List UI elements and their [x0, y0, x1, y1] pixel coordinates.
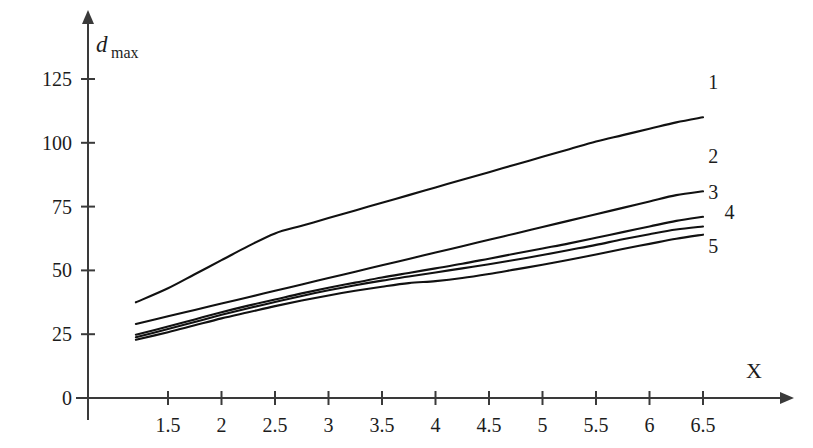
- chart-canvas: 0255075100125 1.522.533.544.555.566.5 12…: [0, 0, 813, 448]
- curve-label-5: 5: [708, 235, 718, 257]
- x-tick-label: 1.5: [156, 414, 181, 436]
- x-tick-label: 4: [431, 414, 441, 436]
- y-tick-label: 75: [52, 196, 72, 218]
- x-tick-label: 6: [645, 414, 655, 436]
- x-tick-label: 5: [538, 414, 548, 436]
- curve-label-3: 3: [708, 181, 718, 203]
- y-tick-label: 25: [52, 323, 72, 345]
- curve-label-4: 4: [724, 201, 734, 223]
- y-axis-title: d max: [96, 32, 139, 61]
- y-tick-label: 50: [52, 259, 72, 281]
- chart-figure: 0255075100125 1.522.533.544.555.566.5 12…: [0, 0, 813, 448]
- data-curves: [136, 117, 703, 340]
- curve-label-1: 1: [708, 71, 718, 93]
- x-axis-title: Χ: [746, 358, 762, 383]
- y-axis-title-main: d: [96, 32, 108, 57]
- x-tick-label: 3.5: [370, 414, 395, 436]
- data-curve-2: [136, 191, 703, 324]
- data-curve-5: [136, 235, 703, 340]
- curve-labels: 12345: [708, 71, 734, 256]
- y-tick-label: 100: [42, 132, 72, 154]
- x-tick-label: 4.5: [477, 414, 502, 436]
- x-tick-label: 6.5: [691, 414, 716, 436]
- x-tick-label: 2.5: [263, 414, 288, 436]
- x-tick-label: 3: [324, 414, 334, 436]
- x-tick-label: 5.5: [584, 414, 609, 436]
- y-tick-label: 0: [62, 387, 72, 409]
- curve-label-2: 2: [708, 145, 718, 167]
- y-axis-title-subscript: max: [111, 44, 139, 61]
- x-tick-label: 2: [217, 414, 227, 436]
- y-tick-label: 125: [42, 68, 72, 90]
